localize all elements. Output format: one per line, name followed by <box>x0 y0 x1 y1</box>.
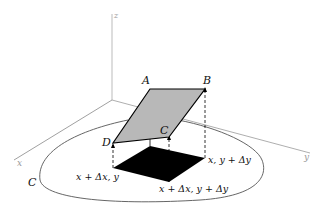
base-patch <box>113 146 205 182</box>
arrow-d <box>111 143 115 148</box>
y-axis-label: y <box>303 152 310 162</box>
vertex-a-label: A <box>141 74 150 87</box>
x-axis-label: x <box>17 158 22 168</box>
base-label-front: x + Δx, y + Δy <box>159 183 229 194</box>
vertex-c-label: C <box>160 124 169 137</box>
x-axis <box>14 100 112 160</box>
surface-patch <box>113 89 205 143</box>
z-axis-label: z <box>113 11 119 20</box>
base-label-left: x + Δx, y <box>76 171 120 182</box>
surface-area-diagram: z x y C A B C D x + Δx, y x, y + Δy x + … <box>0 0 328 211</box>
base-label-right: x, y + Δy <box>208 154 252 165</box>
vertex-b-label: B <box>202 74 211 87</box>
region-c-label: C <box>28 176 37 189</box>
vertex-d-label: D <box>101 136 111 149</box>
